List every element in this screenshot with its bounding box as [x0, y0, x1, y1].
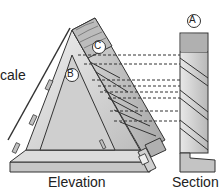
elevation-base — [10, 150, 150, 172]
scale-label: cale — [0, 67, 26, 83]
marker-b-label: B — [67, 68, 74, 79]
marker-c-label: C — [94, 40, 101, 51]
section-view — [180, 33, 215, 172]
section-label: Section — [172, 174, 219, 190]
elevation-label: Elevation — [48, 174, 106, 190]
marker-a-label: A — [189, 14, 196, 25]
diagram-canvas — [0, 0, 220, 192]
